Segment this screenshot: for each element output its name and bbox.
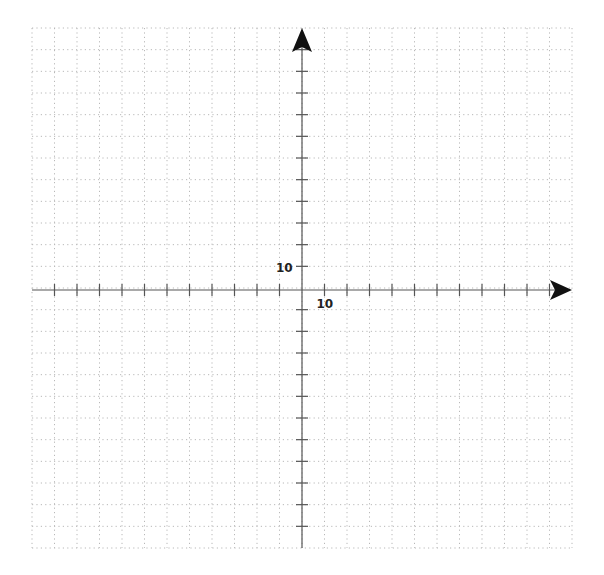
coordinate-plane bbox=[0, 0, 604, 575]
x-axis-tick-label: 10 bbox=[317, 298, 334, 310]
y-axis-tick-label: 10 bbox=[276, 262, 293, 274]
axes bbox=[32, 28, 572, 548]
